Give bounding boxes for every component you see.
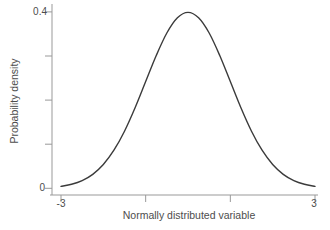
x-axis-label: Normally distributed variable	[59, 209, 319, 221]
x-tick-label-min: -3	[49, 198, 73, 210]
normal-distribution-chart: Probability density Normally distributed…	[0, 0, 330, 230]
y-axis-label: Probability density	[8, 58, 20, 143]
bell-curve	[61, 12, 315, 186]
y-tick-label-max: 0.4	[17, 6, 47, 18]
y-tick-label-zero: 0	[15, 182, 45, 194]
plot-canvas	[0, 0, 330, 230]
x-tick-label-max: 3	[302, 198, 326, 210]
